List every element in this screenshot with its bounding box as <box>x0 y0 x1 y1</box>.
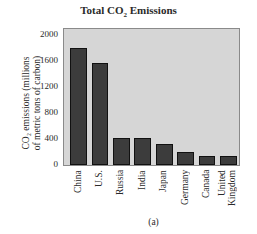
x-tick-label: Germany <box>180 170 190 222</box>
bar-canada <box>199 156 216 165</box>
bar-japan <box>156 144 173 165</box>
plot-area <box>63 28 240 166</box>
y-tick-label: 2000 <box>28 29 58 39</box>
y-tick-label: 400 <box>28 133 58 143</box>
x-tick-label: Russia <box>115 170 125 222</box>
y-tick-label: 800 <box>28 107 58 117</box>
figure-caption: (a) <box>0 217 257 227</box>
y-tick-label: 1200 <box>28 81 58 91</box>
bar-germany <box>177 152 194 165</box>
x-tick-label: India <box>137 170 147 222</box>
bar-china <box>70 48 87 165</box>
y-tick-label: 1600 <box>28 55 58 65</box>
x-tick-label: China <box>73 170 83 222</box>
x-tick-label: Japan <box>158 170 168 222</box>
bar-united-kingdom <box>220 156 237 165</box>
x-tick-label: Canada <box>201 170 211 222</box>
chart-title: Total CO2 Emissions <box>0 4 257 19</box>
bar-india <box>134 138 151 165</box>
bar-u-s <box>92 63 109 165</box>
y-axis-label: CO₂ emissions (millions of metric tons o… <box>21 33 43 173</box>
x-tick-label: U.S. <box>94 170 104 222</box>
bar-russia <box>113 138 130 165</box>
x-tick-label: UnitedKingdom <box>217 170 237 222</box>
y-tick-label: 0 <box>28 159 58 169</box>
